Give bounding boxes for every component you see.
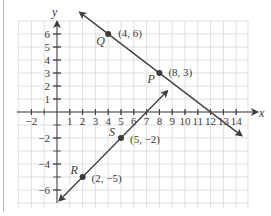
x-tick-label: 5 bbox=[118, 115, 124, 127]
x-tick-label: −2 bbox=[26, 115, 38, 127]
y-tick-label: −2 bbox=[38, 132, 50, 144]
lines bbox=[60, 13, 242, 201]
point-coord-r: (2, −5) bbox=[92, 172, 122, 185]
x-tick-label: 14 bbox=[231, 115, 243, 127]
x-tick-label: 12 bbox=[205, 115, 216, 127]
coordinate-plane: −21234567891011121314654321−2−4−6 Q(4, 6… bbox=[0, 0, 271, 216]
point-label-r: R bbox=[70, 163, 79, 177]
x-tick-label: 8 bbox=[157, 115, 163, 127]
x-tick-label: 2 bbox=[80, 115, 86, 127]
x-tick-label: 11 bbox=[193, 115, 204, 127]
y-axis-label: y bbox=[51, 5, 58, 19]
y-tick-label: 3 bbox=[45, 67, 51, 79]
y-tick-label: 6 bbox=[45, 28, 51, 40]
point-r bbox=[80, 174, 86, 180]
y-tick-label: 1 bbox=[45, 93, 51, 105]
y-tick-label: 5 bbox=[45, 41, 51, 53]
x-tick-label: 3 bbox=[93, 115, 99, 127]
x-tick-label: 10 bbox=[180, 115, 192, 127]
point-coord-q: (4, 6) bbox=[118, 27, 142, 40]
point-coord-p: (8, 3) bbox=[168, 66, 192, 79]
y-tick-label: 2 bbox=[45, 80, 51, 92]
point-label-p: P bbox=[146, 72, 155, 86]
axes: −21234567891011121314654321−2−4−6 bbox=[17, 22, 257, 203]
x-tick-label: 9 bbox=[169, 115, 175, 127]
x-axis-label: x bbox=[258, 106, 265, 120]
point-s bbox=[118, 135, 124, 141]
x-tick-label: 7 bbox=[144, 115, 150, 127]
point-q bbox=[105, 31, 111, 37]
x-tick-label: 1 bbox=[67, 115, 73, 127]
point-p bbox=[156, 70, 162, 76]
point-label-s: S bbox=[109, 125, 115, 139]
point-coord-s: (5, −2) bbox=[130, 133, 160, 146]
y-tick-label: −4 bbox=[38, 158, 50, 170]
line-RS-upper-arrow bbox=[60, 91, 168, 200]
point-label-q: Q bbox=[96, 34, 105, 48]
y-tick-label: −6 bbox=[38, 184, 50, 196]
y-tick-label: 4 bbox=[45, 54, 51, 66]
